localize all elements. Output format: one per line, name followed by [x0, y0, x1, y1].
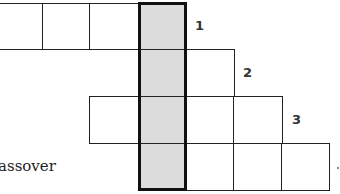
clue-text: assover: [0, 157, 56, 175]
grid-cell-r1-c1[interactable]: [0, 3, 44, 50]
row-divider: [141, 96, 184, 97]
grid-cell-r4-c7[interactable]: [281, 143, 330, 191]
grid-cell-r4-c5[interactable]: [185, 143, 235, 191]
row-divider: [141, 49, 184, 50]
grid-cell-r2-c5[interactable]: [185, 49, 235, 97]
grid-cell-r3-c6[interactable]: [233, 96, 283, 144]
grid-cell-r3-c3[interactable]: [89, 96, 140, 144]
clue-number-1: 1: [195, 19, 204, 32]
grid-cell-r1-c3[interactable]: [89, 3, 140, 50]
edge-mark: [337, 167, 339, 169]
grid-cell-r1-c2[interactable]: [42, 3, 91, 50]
grid-cell-r3-c5[interactable]: [185, 96, 235, 144]
grid-cell-r4-c6[interactable]: [233, 143, 283, 191]
row-divider: [141, 143, 184, 144]
clue-number-3: 3: [292, 113, 301, 126]
highlighted-answer-column[interactable]: [138, 2, 187, 191]
clue-number-2: 2: [243, 66, 252, 79]
